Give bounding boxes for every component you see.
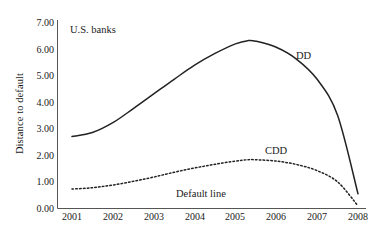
series-label-cdd: CDD — [265, 145, 287, 156]
chart-figure: Distance to default 0.00 1.00 2.00 3.00 … — [0, 0, 381, 235]
panel-title: U.S. banks — [70, 24, 116, 35]
series-label-dd: DD — [296, 50, 311, 61]
series-line-dd — [72, 40, 358, 194]
default-line-label: Default line — [176, 188, 226, 199]
chart-plot-area — [0, 0, 381, 235]
